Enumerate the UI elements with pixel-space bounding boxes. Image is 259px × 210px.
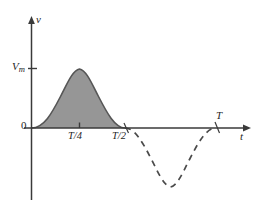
negative-half-cycle-dashed-curve xyxy=(125,128,216,187)
t-axis-label: t xyxy=(240,131,243,142)
waveform-plot-svg xyxy=(0,0,259,210)
origin-label: 0 xyxy=(21,120,27,131)
v-axis-arrowhead xyxy=(28,16,35,24)
vm-tick-label: Vm xyxy=(12,61,25,73)
vm-tick-label-main: V xyxy=(12,60,19,72)
waveform-figure: v t Vm 0 T/4 T/2 T xyxy=(0,0,259,210)
vm-tick-label-subscript: m xyxy=(19,64,25,74)
t-axis-arrowhead xyxy=(243,125,251,132)
t-half-tick-label: T/2 xyxy=(112,131,126,142)
t-quarter-tick-label: T/4 xyxy=(68,131,82,142)
v-axis-label: v xyxy=(36,14,41,25)
t-full-tick-label: T xyxy=(216,110,222,121)
